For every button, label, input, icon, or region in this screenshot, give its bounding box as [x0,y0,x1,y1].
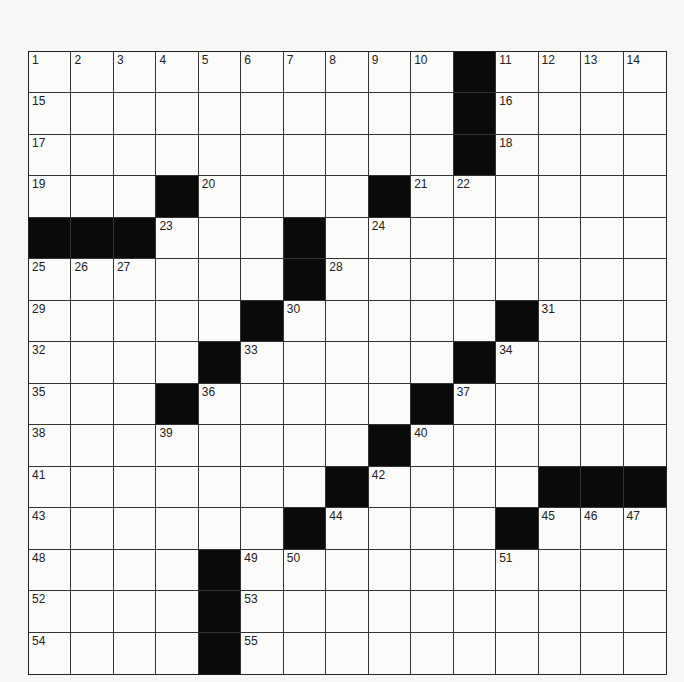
crossword-cell[interactable] [496,633,538,674]
crossword-cell[interactable] [156,135,198,176]
crossword-cell[interactable] [581,384,623,425]
crossword-cell[interactable] [114,135,156,176]
crossword-cell[interactable] [199,508,241,549]
crossword-cell[interactable] [454,633,496,674]
crossword-cell[interactable] [114,176,156,217]
crossword-cell[interactable] [624,591,666,632]
crossword-cell[interactable] [624,425,666,466]
crossword-cell[interactable] [496,218,538,259]
crossword-cell[interactable] [284,342,326,383]
crossword-cell[interactable] [454,591,496,632]
crossword-cell[interactable] [581,591,623,632]
crossword-cell[interactable]: 27 [114,259,156,300]
crossword-cell[interactable] [411,633,453,674]
crossword-cell[interactable] [71,93,113,134]
crossword-cell[interactable] [326,218,368,259]
crossword-cell[interactable]: 3 [114,52,156,93]
crossword-cell[interactable]: 34 [496,342,538,383]
crossword-cell[interactable] [369,301,411,342]
crossword-cell[interactable] [539,259,581,300]
crossword-cell[interactable] [114,384,156,425]
crossword-cell[interactable] [156,93,198,134]
crossword-cell[interactable]: 13 [581,52,623,93]
crossword-cell[interactable] [71,508,113,549]
crossword-cell[interactable] [411,467,453,508]
crossword-cell[interactable] [454,508,496,549]
crossword-cell[interactable]: 52 [29,591,71,632]
crossword-cell[interactable] [454,425,496,466]
crossword-cell[interactable] [199,218,241,259]
crossword-cell[interactable] [539,633,581,674]
crossword-cell[interactable] [326,384,368,425]
crossword-cell[interactable] [624,550,666,591]
crossword-cell[interactable] [241,218,283,259]
crossword-cell[interactable]: 29 [29,301,71,342]
crossword-cell[interactable] [199,301,241,342]
crossword-cell[interactable] [156,301,198,342]
crossword-cell[interactable]: 14 [624,52,666,93]
crossword-cell[interactable] [114,633,156,674]
crossword-cell[interactable]: 2 [71,52,113,93]
crossword-cell[interactable] [369,135,411,176]
crossword-cell[interactable] [496,384,538,425]
crossword-cell[interactable] [114,467,156,508]
crossword-cell[interactable] [326,176,368,217]
crossword-cell[interactable] [411,591,453,632]
crossword-cell[interactable] [581,550,623,591]
crossword-cell[interactable] [581,425,623,466]
crossword-cell[interactable] [369,508,411,549]
crossword-cell[interactable]: 7 [284,52,326,93]
crossword-cell[interactable] [114,508,156,549]
crossword-cell[interactable]: 38 [29,425,71,466]
crossword-cell[interactable] [71,301,113,342]
crossword-cell[interactable]: 30 [284,301,326,342]
crossword-cell[interactable] [114,93,156,134]
crossword-cell[interactable] [496,259,538,300]
crossword-cell[interactable] [454,301,496,342]
crossword-cell[interactable] [581,633,623,674]
crossword-cell[interactable] [369,259,411,300]
crossword-cell[interactable] [241,93,283,134]
crossword-cell[interactable] [581,176,623,217]
crossword-cell[interactable] [539,135,581,176]
crossword-cell[interactable] [539,384,581,425]
crossword-cell[interactable] [581,218,623,259]
crossword-cell[interactable] [199,425,241,466]
crossword-cell[interactable] [539,550,581,591]
crossword-cell[interactable] [411,342,453,383]
crossword-cell[interactable] [411,301,453,342]
crossword-cell[interactable] [411,550,453,591]
crossword-cell[interactable] [454,467,496,508]
crossword-cell[interactable]: 5 [199,52,241,93]
crossword-cell[interactable] [454,259,496,300]
crossword-cell[interactable] [581,93,623,134]
crossword-cell[interactable]: 15 [29,93,71,134]
crossword-cell[interactable] [326,301,368,342]
crossword-cell[interactable] [369,93,411,134]
crossword-cell[interactable] [369,550,411,591]
crossword-cell[interactable]: 33 [241,342,283,383]
crossword-cell[interactable] [411,508,453,549]
crossword-cell[interactable]: 19 [29,176,71,217]
crossword-cell[interactable] [326,135,368,176]
crossword-cell[interactable] [241,425,283,466]
crossword-cell[interactable]: 8 [326,52,368,93]
crossword-cell[interactable]: 54 [29,633,71,674]
crossword-cell[interactable] [624,342,666,383]
crossword-cell[interactable] [581,342,623,383]
crossword-cell[interactable]: 10 [411,52,453,93]
crossword-cell[interactable]: 18 [496,135,538,176]
crossword-cell[interactable] [199,259,241,300]
crossword-cell[interactable] [241,384,283,425]
crossword-cell[interactable] [539,218,581,259]
crossword-cell[interactable] [539,425,581,466]
crossword-cell[interactable] [326,550,368,591]
crossword-cell[interactable] [624,633,666,674]
crossword-cell[interactable] [369,342,411,383]
crossword-cell[interactable] [156,342,198,383]
crossword-cell[interactable] [241,259,283,300]
crossword-cell[interactable]: 23 [156,218,198,259]
crossword-cell[interactable]: 42 [369,467,411,508]
crossword-cell[interactable] [624,135,666,176]
crossword-cell[interactable] [241,176,283,217]
